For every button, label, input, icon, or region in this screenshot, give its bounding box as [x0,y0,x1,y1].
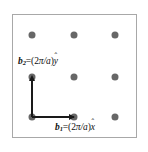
b1-vector-label: b1=(2π/a)ˆx [55,123,95,133]
b1-unit-vector: ˆx [91,123,95,133]
b1-vector-arrow [32,116,74,118]
lattice-point [112,32,119,39]
b2-unit-vector: ˆy [54,57,58,67]
lattice-frame: b2=(2π/a)ˆy b1=(2π/a)ˆx [12,14,137,138]
lattice-point [71,32,78,39]
b1-hat-accent: ˆ [92,119,95,127]
b2-vector-arrow [31,77,33,117]
b2-vector-label: b2=(2π/a)ˆy [18,57,58,67]
b1-over-a: /a [80,122,87,132]
lattice-point [112,74,119,81]
lattice-point [112,114,119,121]
b2-arrowhead-icon [29,75,35,81]
lattice-point [71,74,78,81]
lattice-point [29,32,36,39]
b2-over-a: /a [43,56,50,66]
b2-hat-accent: ˆ [55,53,58,61]
b1-arrowhead-icon [69,114,75,120]
b2-equals: =(2 [26,56,39,66]
reciprocal-lattice-figure: b2=(2π/a)ˆy b1=(2π/a)ˆx [0,0,148,152]
b1-equals: =(2 [63,122,76,132]
